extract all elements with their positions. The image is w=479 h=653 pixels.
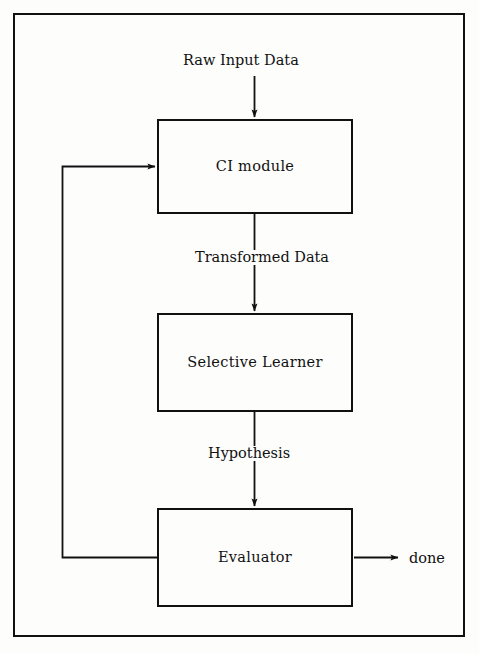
edge-label-transformed-data: Transformed Data — [190, 250, 334, 265]
node-evaluator-label: Evaluator — [218, 550, 292, 565]
node-evaluator[interactable]: Evaluator — [157, 508, 353, 607]
node-ci-module[interactable]: CI module — [157, 119, 353, 214]
diagram-canvas: CI module Selective Learner Evaluator Ra… — [0, 0, 479, 653]
edge-label-done: done — [404, 551, 450, 566]
node-ci-module-label: CI module — [216, 159, 294, 174]
node-selective-learner[interactable]: Selective Learner — [157, 313, 353, 412]
node-selective-learner-label: Selective Learner — [187, 355, 322, 370]
edge-feedback-evaluator-to-ci — [63, 167, 158, 558]
edge-label-hypothesis: Hypothesis — [203, 446, 295, 461]
edge-label-raw-input: Raw Input Data — [178, 53, 304, 68]
